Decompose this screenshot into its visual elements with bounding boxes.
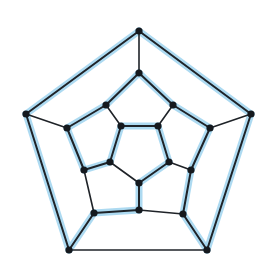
node-M8 [63,124,70,131]
edge-I2-I3 [139,162,169,183]
node-M1 [169,101,176,108]
node-O0 [135,27,142,34]
edge-O3-O4 [26,114,69,250]
node-M7 [80,166,87,173]
edge-I4-I0 [110,126,121,162]
node-M3 [187,166,194,173]
edge-M2-M3 [191,128,210,170]
edge-M4-M5 [139,210,183,214]
node-M6 [90,209,97,216]
node-I4 [106,158,113,165]
node-M2 [206,124,213,131]
node-I3 [135,179,142,186]
node-I0 [117,122,124,129]
node-I2 [165,158,172,165]
edge-O2-M4 [183,214,207,250]
edge-M7-M8 [67,128,84,170]
node-M0 [135,69,142,76]
dodecahedron-graph [0,0,276,272]
node-I1 [154,122,161,129]
node-M5 [135,206,142,213]
edge-M9-I0 [106,105,121,126]
edge-I3-I4 [110,162,139,183]
edge-M9-M0 [106,73,139,105]
edge-M0-M1 [139,73,173,105]
node-O4 [22,110,29,117]
edge-O4-O0 [26,31,139,114]
edge-I1-I2 [158,126,169,162]
node-O2 [203,246,210,253]
edge-O3-M6 [69,213,94,250]
node-O1 [247,110,254,117]
edge-M6-M7 [84,170,94,213]
edge-M1-M2 [173,105,210,128]
node-M9 [102,101,109,108]
edge-M1-I1 [158,105,173,126]
node-O3 [65,246,72,253]
edge-M8-M9 [67,105,106,128]
edge-O1-O2 [207,114,251,250]
edge-O0-O1 [139,31,251,114]
node-M4 [179,210,186,217]
